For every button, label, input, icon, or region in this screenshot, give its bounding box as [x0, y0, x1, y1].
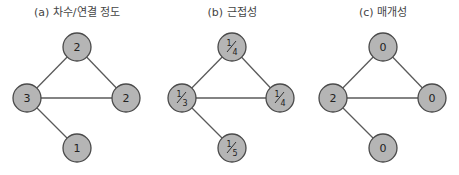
node-value-denominator: 4: [232, 48, 237, 57]
node-value: 3: [24, 92, 31, 105]
panel-b-node-bottom: 15: [218, 134, 246, 162]
panel-c-node-bottom: 0: [369, 134, 397, 162]
panel-a-node-right: 2: [112, 84, 140, 112]
node-value: 0: [429, 92, 436, 105]
node-value-denominator: 5: [232, 149, 237, 158]
panel-b-title: (b) 근접성: [207, 6, 256, 19]
edges-layer: [27, 47, 432, 148]
node-value-numerator: 1: [226, 39, 231, 48]
panel-c-node-right: 0: [418, 84, 446, 112]
node-value: 1: [74, 142, 81, 155]
node-value: 2: [74, 41, 81, 54]
node-value-numerator: 1: [176, 90, 181, 99]
panel-b-node-left: 13: [168, 84, 196, 112]
panel-a-title: (a) 차수/연결 정도: [34, 6, 120, 19]
centrality-diagram: (a) 차수/연결 정도 (b) 근접성 (c) 매개성 23211413141…: [0, 0, 459, 175]
node-value-denominator: 3: [182, 99, 187, 108]
panel-b-node-top: 14: [218, 33, 246, 61]
panel-b-node-right: 14: [266, 84, 294, 112]
node-value: 2: [123, 92, 130, 105]
node-value-numerator: 1: [274, 90, 279, 99]
node-value: 0: [380, 41, 387, 54]
panel-c-title: (c) 매개성: [359, 6, 407, 19]
node-value: 2: [330, 92, 337, 105]
node-value-numerator: 1: [226, 140, 231, 149]
node-value: 0: [380, 142, 387, 155]
panel-a-node-bottom: 1: [63, 134, 91, 162]
panel-c-node-left: 2: [319, 84, 347, 112]
node-value-denominator: 4: [280, 99, 285, 108]
panel-a-node-left: 3: [13, 84, 41, 112]
panel-a-node-top: 2: [63, 33, 91, 61]
panel-c-node-top: 0: [369, 33, 397, 61]
